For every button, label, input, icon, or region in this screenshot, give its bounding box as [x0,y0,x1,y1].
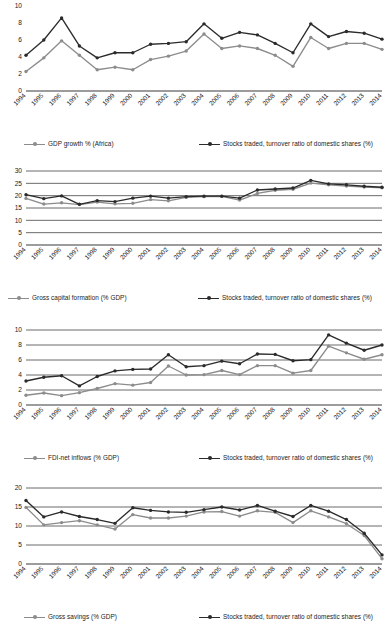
legend-item-1-0[interactable]: Gross capital formation (% GDP) [8,295,198,302]
data-point-marker [185,365,188,368]
data-point-marker [78,54,81,57]
x-axis-tick-label: 1998 [83,405,98,420]
data-point-marker [238,196,241,199]
data-point-marker [167,364,170,367]
data-point-marker [291,359,294,362]
data-point-marker [167,196,170,199]
data-point-marker [256,364,259,367]
data-point-marker [238,31,241,34]
data-point-marker [309,36,312,39]
legend-marker-icon [24,455,45,462]
data-point-marker [131,368,134,371]
y-axis-tick-label: 2 [18,386,22,393]
x-axis-tick-label: 2002 [154,564,169,579]
legend-item-3-0[interactable]: Gross savings (% GDP) [24,614,199,621]
data-point-marker [327,509,330,512]
data-point-marker [149,381,152,384]
legend-label: Stocks traded, turnover ratio of domesti… [223,614,373,620]
data-point-marker [149,198,152,201]
x-axis-tick-label: 1997 [65,245,80,260]
data-point-marker [42,391,45,394]
x-axis-tick-label: 2002 [154,405,169,420]
x-axis-tick-label: 1997 [65,405,80,420]
data-point-marker [274,42,277,45]
legend-item-2-1[interactable]: Stocks traded, turnover ratio of domesti… [199,455,373,462]
y-axis-tick-label: 10 [15,217,23,224]
data-point-marker [60,510,63,513]
data-point-marker [202,22,205,25]
data-point-marker [309,179,312,182]
data-point-marker [185,514,188,517]
data-point-marker [96,375,99,378]
data-point-marker [220,510,223,513]
x-axis-tick-label: 2004 [190,91,205,106]
x-axis-tick-label: 2012 [332,405,347,420]
data-point-marker [149,58,152,61]
data-point-marker [24,506,27,509]
legend-item-3-1[interactable]: Stocks traded, turnover ratio of domesti… [199,614,373,621]
x-axis-tick-label: 1998 [83,564,98,579]
data-point-marker [24,394,27,397]
legend-label: Stocks traded, turnover ratio of domesti… [223,455,373,461]
data-point-marker [274,364,277,367]
legend-gross-savings: Gross savings (% GDP) Stocks traded, tur… [0,610,391,624]
y-axis-tick-label: 5 [18,541,22,548]
data-point-marker [256,188,259,191]
data-point-marker [256,504,259,507]
y-axis-tick-label: 15 [15,503,23,510]
data-point-marker [238,44,241,47]
x-axis-tick-label: 2011 [315,91,330,106]
x-axis-tick-label: 1999 [101,91,116,106]
data-point-marker [202,373,205,376]
data-point-marker [42,515,45,518]
data-point-marker [60,201,63,204]
x-axis-tick-label: 1998 [83,91,98,106]
data-point-marker [202,364,205,367]
x-axis-tick-label: 2001 [136,564,151,579]
data-point-marker [167,510,170,513]
y-axis-tick-label: 8 [18,19,22,26]
x-axis-tick-label: 2001 [136,245,151,260]
x-axis-tick-label: 2001 [136,405,151,420]
x-axis-tick-label: 2006 [225,245,240,260]
x-axis-tick-label: 1999 [101,564,116,579]
data-point-marker [78,44,81,47]
data-point-marker [345,183,348,186]
data-point-marker [238,373,241,376]
x-axis-tick-label: 2001 [136,91,151,106]
x-axis-tick-label: 2006 [225,564,240,579]
line-chart-gross-savings: 0510152019941995199619971998199920002001… [0,482,391,610]
data-point-marker [149,516,152,519]
data-point-marker [113,51,116,54]
data-point-marker [345,341,348,344]
legend-marker-icon [8,295,29,302]
data-point-marker [131,383,134,386]
figure-page: 0246810199419951996199719981999200020012… [0,0,391,635]
data-point-marker [24,54,27,57]
chart-area-fdi-net-inflows: 0246810199419951996199719981999200020012… [0,310,391,451]
data-point-marker [60,374,63,377]
data-point-marker [345,518,348,521]
y-axis-tick-label: 15 [15,204,23,211]
data-point-marker [60,194,63,197]
data-point-marker [291,371,294,374]
legend-item-0-1[interactable]: Stocks traded, turnover ratio of domesti… [199,141,373,148]
chart-panel-gross-capital-formation: 0510152025301994199519961997199819992000… [0,165,391,310]
chart-panel-fdi-net-inflows: 0246810199419951996199719981999200020012… [0,310,391,470]
legend-item-0-0[interactable]: GDP growth % (Africa) [24,141,199,148]
legend-label: Gross savings (% GDP) [48,614,117,620]
x-axis-tick-label: 2008 [261,91,276,106]
legend-label: Stocks traded, turnover ratio of domesti… [223,141,373,147]
x-axis-tick-label: 2007 [243,245,258,260]
legend-item-2-0[interactable]: FDI-net inflows (% GDP) [24,455,199,462]
y-axis-tick-label: 6 [18,356,22,363]
data-point-marker [256,352,259,355]
data-point-marker [363,349,366,352]
data-point-marker [149,194,152,197]
data-point-marker [291,65,294,68]
x-axis-tick-label: 2013 [350,91,365,106]
x-axis-tick-label: 2012 [332,564,347,579]
data-point-marker [167,54,170,57]
data-point-marker [149,43,152,46]
legend-item-1-1[interactable]: Stocks traded, turnover ratio of domesti… [198,295,372,302]
